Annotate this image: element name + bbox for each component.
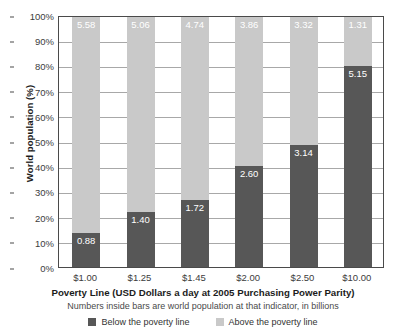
y-axis-tick-mark — [10, 16, 14, 17]
chart-legend: Below the poverty lineAbove the poverty … — [0, 317, 406, 327]
y-axis-tick-label: 30% — [14, 187, 54, 198]
bar-value-label-above: 5.06 — [127, 19, 155, 30]
bar-value-label-below: 1.72 — [181, 202, 209, 213]
legend-swatch-icon — [88, 318, 96, 326]
bar-value-label-below: 2.60 — [235, 168, 263, 179]
x-axis-tick-label: $10.00 — [327, 272, 387, 283]
y-axis-tick-mark — [10, 66, 14, 67]
bar-segment-above-poverty-line: 4.74 — [181, 17, 209, 202]
y-axis-tick-label: 60% — [14, 111, 54, 122]
bar-value-label-above: 1.31 — [344, 19, 372, 30]
y-axis-tick-mark — [10, 243, 14, 244]
bar-group: 4.741.72 — [181, 17, 209, 267]
bar-segment-above-poverty-line: 1.31 — [344, 17, 372, 68]
x-axis-title: Poverty Line (USD Dollars a day at 2005 … — [0, 287, 406, 298]
y-axis-tick-label: 90% — [14, 36, 54, 47]
x-axis-tick-label: $2.50 — [273, 272, 333, 283]
y-axis-tick-label: 100% — [14, 11, 54, 22]
y-axis-tick-mark — [10, 218, 14, 219]
bar-segment-above-poverty-line: 3.32 — [290, 17, 318, 147]
y-axis-tick-label: 20% — [14, 212, 54, 223]
legend-item: Below the poverty line — [88, 317, 189, 327]
y-axis-tick-mark — [10, 268, 14, 269]
x-axis-subtitle: Numbers inside bars are world population… — [0, 301, 406, 311]
bar-group: 1.315.15 — [344, 17, 372, 267]
bar-segment-above-poverty-line: 5.58 — [72, 17, 100, 235]
bars-layer: 5.580.885.061.404.741.723.862.603.323.14… — [59, 17, 383, 267]
bar-group: 5.580.88 — [72, 17, 100, 267]
bar-group: 3.323.14 — [290, 17, 318, 267]
bar-segment-below-poverty-line: 1.72 — [181, 200, 209, 267]
y-axis-tick-label: 50% — [14, 137, 54, 148]
bar-value-label-below: 3.14 — [290, 147, 318, 158]
y-axis-tick-mark — [10, 142, 14, 143]
x-axis-tick-label: $1.45 — [164, 272, 224, 283]
x-axis-tick-label: $1.25 — [110, 272, 170, 283]
y-axis-tick-mark — [10, 192, 14, 193]
bar-value-label-below: 0.88 — [72, 235, 100, 246]
bar-segment-below-poverty-line: 3.14 — [290, 145, 318, 267]
y-axis-tick-label: 80% — [14, 61, 54, 72]
y-axis-tick-mark — [10, 117, 14, 118]
bar-value-label-below: 5.15 — [344, 68, 372, 79]
legend-item: Above the poverty line — [216, 317, 318, 327]
legend-swatch-icon — [216, 318, 224, 326]
y-axis-tick-label: 70% — [14, 86, 54, 97]
bar-segment-below-poverty-line: 2.60 — [235, 166, 263, 267]
x-axis-tick-label: $1.00 — [55, 272, 115, 283]
y-axis-tick-label: 40% — [14, 162, 54, 173]
y-axis-tick-mark — [10, 92, 14, 93]
bar-value-label-below: 1.40 — [127, 214, 155, 225]
bar-value-label-above: 3.32 — [290, 19, 318, 30]
bar-segment-below-poverty-line: 1.40 — [127, 212, 155, 267]
legend-label: Above the poverty line — [229, 317, 318, 327]
bar-group: 3.862.60 — [235, 17, 263, 267]
bar-segment-above-poverty-line: 3.86 — [235, 17, 263, 168]
x-axis-tick-label: $2.00 — [218, 272, 278, 283]
y-axis-tick-mark — [10, 167, 14, 168]
y-axis-tick-label: 0% — [14, 263, 54, 274]
bar-value-label-above: 3.86 — [235, 19, 263, 30]
bar-segment-above-poverty-line: 5.06 — [127, 17, 155, 214]
poverty-line-stacked-bar-chart: World population (%) 0%10%20%30%40%50%60… — [0, 0, 406, 334]
bar-value-label-above: 5.58 — [72, 19, 100, 30]
plot-area: 5.580.885.061.404.741.723.862.603.323.14… — [58, 16, 384, 268]
y-axis-tick-mark — [10, 41, 14, 42]
bar-group: 5.061.40 — [127, 17, 155, 267]
bar-value-label-above: 4.74 — [181, 19, 209, 30]
bar-segment-below-poverty-line: 5.15 — [344, 66, 372, 267]
legend-label: Below the poverty line — [101, 317, 189, 327]
y-axis-tick-label: 10% — [14, 237, 54, 248]
bar-segment-below-poverty-line: 0.88 — [72, 233, 100, 267]
